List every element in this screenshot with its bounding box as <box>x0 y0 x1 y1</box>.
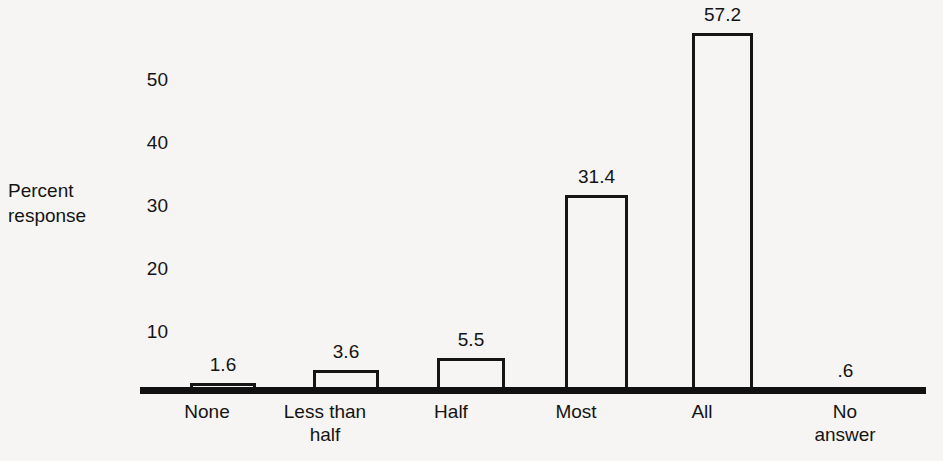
x-tick-label-no-answer-line-1: No <box>785 400 905 423</box>
plot-area: 1.6 3.6 5.5 31.4 57.2 .6 <box>140 20 926 393</box>
x-tick-label-all: All <box>662 400 742 423</box>
bar-all <box>692 33 753 393</box>
x-tick-label-none-line-1: None <box>157 400 257 423</box>
bar-value-all: 57.2 <box>692 5 753 24</box>
y-axis-title-line-2: response <box>8 203 128 228</box>
x-tick-label-none: None <box>157 400 257 423</box>
x-tick-label-all-line-1: All <box>662 400 742 423</box>
bar-value-most: 31.4 <box>565 167 628 186</box>
x-tick-label-less-than-half-line-1: Less than <box>265 400 385 423</box>
bar-most <box>565 195 628 393</box>
y-axis-title: Percent response <box>8 178 128 228</box>
x-tick-label-no-answer: No answer <box>785 400 905 446</box>
x-axis-line <box>140 387 926 394</box>
bar-chart-figure: Percent response 10 20 30 40 50 1.6 3.6 … <box>0 0 943 461</box>
x-tick-label-half: Half <box>411 400 491 423</box>
bar-value-half: 5.5 <box>437 330 505 349</box>
y-axis-title-line-1: Percent <box>8 178 128 203</box>
x-tick-label-less-than-half: Less than half <box>265 400 385 446</box>
bar-value-none: 1.6 <box>190 355 256 374</box>
x-tick-label-most: Most <box>526 400 626 423</box>
x-tick-label-most-line-1: Most <box>526 400 626 423</box>
x-tick-label-less-than-half-line-2: half <box>265 423 385 446</box>
bar-value-less-than-half: 3.6 <box>313 342 379 361</box>
x-tick-label-half-line-1: Half <box>411 400 491 423</box>
bar-value-no-answer: .6 <box>812 361 879 380</box>
x-tick-label-no-answer-line-2: answer <box>785 423 905 446</box>
